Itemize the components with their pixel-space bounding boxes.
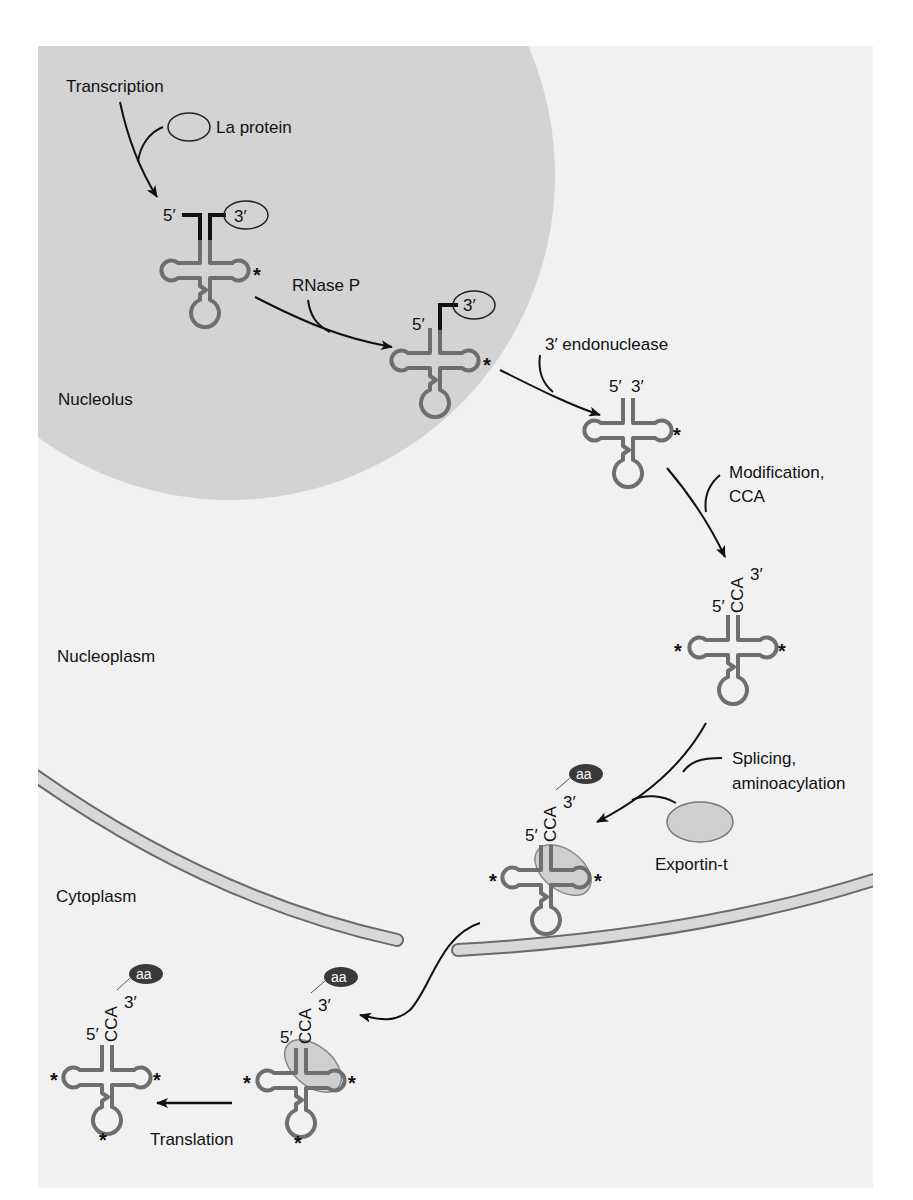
modification-asterisk: * (674, 640, 682, 662)
la-protein-label: La protein (216, 118, 292, 137)
five-prime-label: 5′ (86, 1025, 99, 1044)
modification-asterisk: * (348, 1072, 356, 1094)
three-prime-label: 3′ (631, 377, 644, 396)
cytoplasm-label: Cytoplasm (56, 887, 136, 906)
modification-asterisk: * (243, 1072, 251, 1094)
modification-asterisk: * (153, 1069, 161, 1091)
nucleoplasm-label: Nucleoplasm (57, 647, 155, 666)
aminoacylation-label: aminoacylation (732, 774, 845, 793)
five-prime-label: 5′ (280, 1028, 293, 1047)
trna-processing-diagram: Nucleolus Nucleoplasm Cytoplasm Transcri… (0, 0, 913, 1200)
modification-asterisk: * (253, 264, 261, 286)
five-prime-label: 5′ (525, 826, 538, 845)
five-prime-label: 5′ (712, 597, 725, 616)
three-prime-label: 3′ (234, 207, 247, 226)
transcription-label: Transcription (66, 77, 164, 96)
five-prime-label: 5′ (609, 377, 622, 396)
nucleolus-label: Nucleolus (58, 390, 133, 409)
endonuclease-label: 3′ endonuclease (545, 335, 668, 354)
aa-label: aa (136, 966, 152, 982)
modification-asterisk: * (489, 870, 497, 892)
modification-asterisk: * (50, 1069, 58, 1091)
aa-label: aa (331, 969, 347, 985)
cca-label: CCA (102, 1005, 121, 1042)
exportin-t-label: Exportin-t (655, 855, 728, 874)
cca-label: CCA (541, 805, 560, 842)
modification-asterisk: * (294, 1132, 302, 1154)
modification-asterisk: * (778, 640, 786, 662)
modification-asterisk: * (594, 870, 602, 892)
splicing-label: Splicing, (732, 749, 796, 768)
modification-asterisk: * (483, 354, 491, 376)
three-prime-label: 3′ (124, 993, 137, 1012)
cca-label: CCA (296, 1007, 315, 1044)
three-prime-label: 3′ (750, 565, 763, 584)
modification-label: Modification, (729, 463, 824, 482)
aa-label: aa (576, 766, 592, 782)
modification-asterisk: * (673, 424, 681, 446)
cca-addition-label: CCA (729, 487, 766, 506)
translation-label: Translation (150, 1130, 233, 1149)
rnase-p-label: RNase P (292, 276, 360, 295)
cca-label: CCA (728, 576, 747, 613)
exportin-t-shape (667, 802, 733, 842)
three-prime-label: 3′ (318, 996, 331, 1015)
three-prime-label: 3′ (463, 296, 476, 315)
three-prime-label: 3′ (563, 793, 576, 812)
five-prime-label: 5′ (412, 315, 425, 334)
five-prime-label: 5′ (163, 206, 176, 225)
modification-asterisk: * (99, 1129, 107, 1151)
